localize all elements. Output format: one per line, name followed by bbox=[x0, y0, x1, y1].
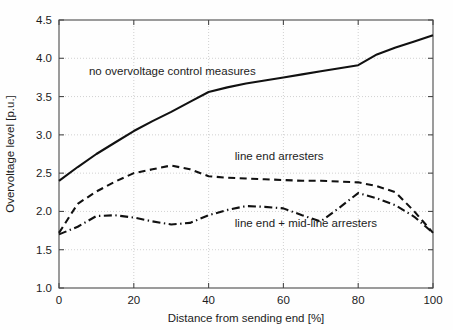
x-tick-label: 0 bbox=[56, 294, 62, 306]
y-tick-label: 2.0 bbox=[36, 205, 52, 217]
figure-background bbox=[0, 0, 453, 330]
y-tick-label: 4.5 bbox=[36, 14, 52, 26]
series-annotation-2: line end + mid-line arresters bbox=[235, 217, 377, 229]
chart-figure: 020406080100 1.01.52.02.53.03.54.04.5 no… bbox=[0, 0, 453, 330]
x-tick-label: 40 bbox=[202, 294, 215, 306]
y-tick-label: 1.5 bbox=[36, 244, 52, 256]
y-tick-label: 3.0 bbox=[36, 129, 52, 141]
x-tick-label: 60 bbox=[277, 294, 290, 306]
series-annotation-0: no overvoltage control measures bbox=[89, 65, 256, 77]
y-tick-label: 4.0 bbox=[36, 52, 52, 64]
x-tick-label: 80 bbox=[352, 294, 365, 306]
x-axis-title: Distance from sending end [%] bbox=[168, 312, 325, 324]
y-tick-label: 2.5 bbox=[36, 167, 52, 179]
y-axis-title: Overvoltage level [p.u.] bbox=[4, 95, 16, 213]
x-tick-label: 20 bbox=[127, 294, 140, 306]
y-tick-label: 3.5 bbox=[36, 91, 52, 103]
overvoltage-line-chart: 020406080100 1.01.52.02.53.03.54.04.5 no… bbox=[0, 0, 453, 330]
series-annotation-1: line end arresters bbox=[235, 150, 324, 162]
x-tick-label: 100 bbox=[423, 294, 442, 306]
y-tick-label: 1.0 bbox=[36, 282, 52, 294]
